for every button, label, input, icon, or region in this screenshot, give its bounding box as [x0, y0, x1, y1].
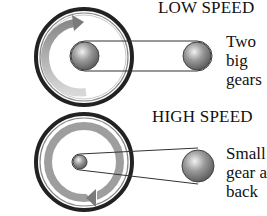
rear-gear-icon	[183, 42, 211, 70]
panel-caption: Two big gears	[226, 32, 262, 89]
front-gear-icon	[73, 155, 87, 169]
rear-gear-icon	[182, 150, 214, 182]
caption-line: gear a	[226, 163, 267, 182]
caption-line: Small	[226, 144, 267, 163]
panel-title: LOW SPEED	[158, 0, 254, 18]
panel-title: HIGH SPEED	[152, 107, 253, 127]
low-speed-panel: LOW SPEED Two big gears	[0, 0, 267, 108]
high-speed-panel: HIGH SPEED Small gear a back	[0, 108, 267, 216]
front-gear-icon	[71, 42, 99, 70]
caption-line: big	[226, 51, 262, 70]
caption-line: Two	[226, 32, 262, 51]
caption-line: back	[226, 182, 267, 201]
caption-line: gears	[226, 70, 262, 89]
panel-caption: Small gear a back	[226, 144, 267, 201]
